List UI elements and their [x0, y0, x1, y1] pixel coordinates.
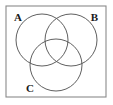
- venn-diagram-screenshot: A B C: [0, 0, 113, 105]
- venn-diagram-figure: A B C: [0, 0, 113, 105]
- label-c: C: [26, 82, 34, 94]
- label-b: B: [91, 11, 99, 23]
- label-a: A: [14, 11, 22, 23]
